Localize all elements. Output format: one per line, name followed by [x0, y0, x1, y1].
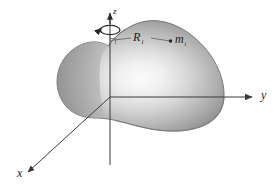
y-axis-label: y: [260, 88, 267, 102]
radius-label-symbol: R: [132, 30, 141, 44]
x-axis-label: x: [16, 166, 23, 180]
spin-direction-arrowhead: [100, 28, 101, 32]
z-axis-label: z: [112, 6, 117, 16]
mass-label-symbol: m: [175, 32, 184, 46]
figure-container: z y x R i m i: [0, 0, 277, 190]
mass-element-point: [169, 39, 172, 42]
rigid-body-rotation-diagram: z y x R i m i: [0, 0, 277, 190]
radius-label-subscript: i: [142, 38, 144, 46]
